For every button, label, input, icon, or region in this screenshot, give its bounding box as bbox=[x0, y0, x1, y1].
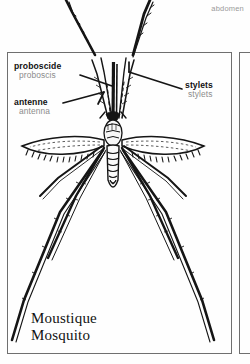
label-stylets: stylets stylets bbox=[185, 81, 213, 99]
label-proboscis: proboscide proboscis bbox=[14, 62, 61, 80]
label-proboscis-en: proboscis bbox=[14, 71, 61, 80]
label-stylets-en: stylets bbox=[185, 90, 213, 99]
caption-fr: Moustique bbox=[31, 310, 97, 327]
figure-caption: Moustique Mosquito bbox=[31, 310, 97, 344]
adjacent-panel-frame bbox=[239, 52, 250, 354]
label-antenna-en: antenna bbox=[14, 107, 50, 116]
front-leg-left-upper bbox=[66, 0, 95, 55]
caption-en: Mosquito bbox=[31, 327, 97, 344]
front-leg-right-upper bbox=[133, 0, 154, 57]
label-antenna: antenne antenna bbox=[14, 98, 50, 116]
adjacent-panel-abdomen-label: abdomen bbox=[211, 4, 244, 13]
illustration-page: abdomen bbox=[0, 0, 250, 364]
